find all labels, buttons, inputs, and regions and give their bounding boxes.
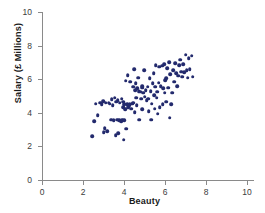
data-point — [153, 85, 157, 89]
data-point — [133, 110, 137, 114]
data-point — [149, 118, 153, 122]
x-tick: 10 — [247, 180, 248, 185]
data-point — [94, 102, 98, 106]
data-point — [146, 85, 150, 89]
data-point — [128, 102, 132, 106]
data-point — [169, 103, 173, 107]
data-point — [124, 79, 128, 83]
data-point — [128, 80, 132, 84]
data-point — [149, 89, 153, 93]
x-tick: 0 — [42, 180, 43, 185]
y-tick-label: 0 — [27, 176, 32, 185]
data-point — [131, 101, 135, 105]
data-point — [167, 61, 171, 65]
data-point — [92, 119, 96, 123]
data-point — [124, 127, 128, 131]
scatter-chart: 0246810 0246810 Beauty Salary (£ Million… — [0, 0, 265, 213]
x-tick: 4 — [124, 180, 125, 185]
y-tick: 6 — [38, 79, 43, 80]
data-point — [122, 138, 126, 142]
data-point — [168, 72, 172, 76]
data-point — [111, 103, 115, 107]
data-point — [181, 75, 185, 79]
x-tick: 8 — [206, 180, 207, 185]
data-point — [164, 100, 168, 104]
data-point — [134, 82, 138, 86]
data-point — [147, 109, 151, 113]
data-point — [152, 72, 156, 76]
data-point — [177, 74, 181, 78]
y-tick: 2 — [38, 146, 43, 147]
data-point — [186, 76, 190, 80]
data-point — [163, 91, 167, 95]
data-point — [168, 116, 172, 120]
y-tick-label: 8 — [27, 41, 32, 50]
data-point — [176, 84, 180, 88]
data-point — [156, 112, 160, 116]
data-point — [161, 87, 165, 91]
y-tick-label: 6 — [27, 75, 32, 84]
data-point — [126, 73, 130, 77]
data-point — [162, 62, 166, 66]
data-point — [165, 66, 169, 70]
data-point — [172, 80, 176, 84]
data-point — [135, 96, 139, 100]
y-tick: 10 — [38, 12, 43, 13]
data-point — [164, 77, 168, 81]
data-point — [182, 62, 186, 66]
data-point — [141, 84, 145, 88]
data-point — [170, 91, 174, 95]
data-point — [173, 61, 177, 65]
data-point — [90, 135, 94, 139]
data-point — [188, 67, 192, 71]
x-axis-title: Beauty — [42, 196, 247, 206]
data-point — [178, 63, 182, 67]
data-point — [146, 97, 150, 101]
data-point — [166, 86, 170, 90]
y-tick-label: 2 — [27, 142, 32, 151]
data-point — [148, 77, 152, 81]
data-point — [153, 93, 157, 97]
y-axis-title: Salary (£ Millions) — [13, 0, 23, 128]
x-axis-line — [42, 180, 254, 181]
data-point — [153, 107, 157, 111]
data-point — [105, 129, 109, 133]
data-point — [150, 102, 154, 106]
data-point — [191, 75, 195, 79]
y-tick-label: 10 — [23, 8, 32, 17]
data-point — [135, 103, 139, 107]
plot-area: 0246810 0246810 — [42, 12, 247, 180]
y-tick: 8 — [38, 46, 43, 47]
data-point — [116, 131, 120, 135]
y-axis-line — [42, 12, 43, 181]
x-tick: 2 — [83, 180, 84, 185]
data-point — [138, 118, 142, 122]
data-point — [179, 58, 183, 62]
data-point — [137, 76, 141, 80]
data-point — [96, 114, 100, 118]
data-point — [141, 108, 145, 112]
data-point — [190, 54, 194, 58]
data-point — [132, 67, 136, 71]
data-point — [142, 68, 146, 72]
data-point — [122, 119, 126, 123]
y-tick: 4 — [38, 113, 43, 114]
x-tick: 6 — [165, 180, 166, 185]
y-tick-label: 4 — [27, 109, 32, 118]
data-point — [144, 88, 148, 92]
data-point — [121, 100, 125, 104]
